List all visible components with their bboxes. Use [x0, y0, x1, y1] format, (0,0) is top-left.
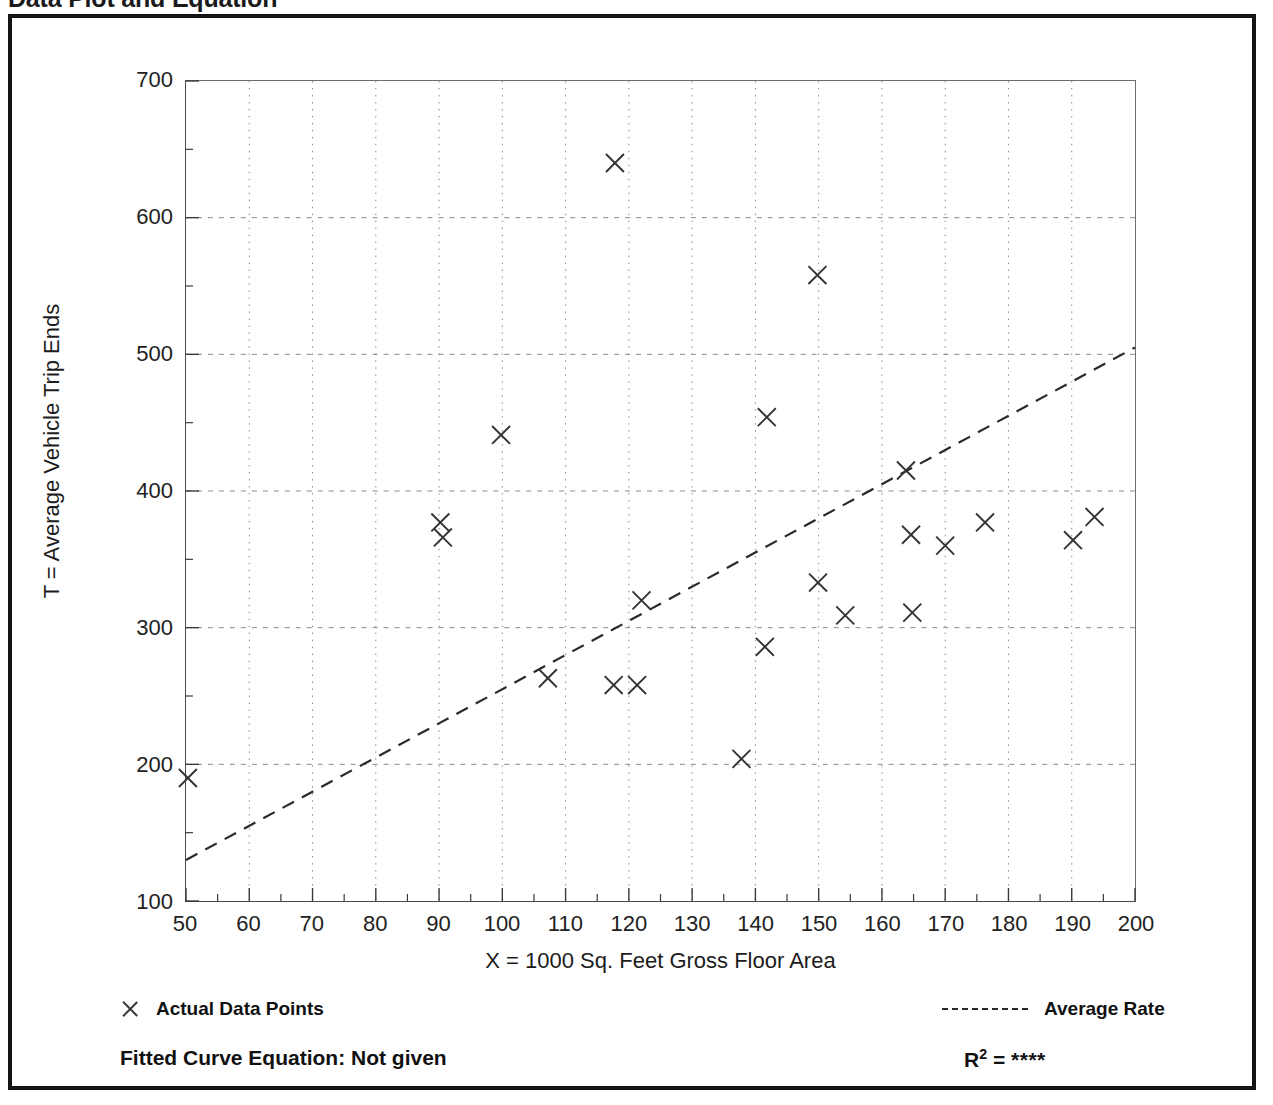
x-tick-50: 50: [173, 911, 197, 937]
x-tick-180: 180: [991, 911, 1028, 937]
fitted-curve-equation: Fitted Curve Equation: Not given: [120, 1046, 447, 1070]
figure-frame: 100200300400500600700 506070809010011012…: [8, 14, 1256, 1090]
x-tick-140: 140: [737, 911, 774, 937]
data-point: [936, 537, 954, 555]
r-squared-annotation: R2 = ****: [964, 1046, 1046, 1072]
legend-item-actual-data-points: Actual Data Points: [120, 998, 324, 1020]
x-tick-190: 190: [1054, 911, 1091, 937]
y-tick-700: 700: [136, 67, 173, 93]
r-squared-equals: =: [987, 1048, 1011, 1071]
data-point: [539, 669, 557, 687]
x-tick-70: 70: [300, 911, 324, 937]
data-point: [492, 426, 510, 444]
data-point: [628, 676, 646, 694]
x-tick-110: 110: [548, 911, 583, 937]
y-axis-tick-labels: 100200300400500600700: [107, 80, 173, 902]
x-tick-60: 60: [236, 911, 260, 937]
r-squared-symbol: R: [964, 1048, 979, 1071]
data-point: [605, 676, 623, 694]
data-point: [976, 513, 994, 531]
r-squared-value: ****: [1011, 1048, 1046, 1071]
x-tick-80: 80: [363, 911, 387, 937]
y-axis-title: T = Average Vehicle Trip Ends: [39, 211, 65, 691]
x-tick-90: 90: [426, 911, 450, 937]
page-title: Data Plot and Equation: [8, 0, 277, 13]
x-tick-130: 130: [674, 911, 711, 937]
data-point: [1064, 531, 1082, 549]
r-squared-exponent: 2: [979, 1046, 987, 1062]
data-point: [633, 591, 651, 609]
y-tick-200: 200: [136, 752, 173, 778]
legend-label-actual-data-points: Actual Data Points: [156, 998, 324, 1020]
dashed-line-icon: [942, 1008, 1028, 1010]
x-tick-120: 120: [610, 911, 647, 937]
legend-label-average-rate: Average Rate: [1044, 998, 1165, 1020]
data-point: [758, 408, 776, 426]
data-point: [756, 638, 774, 656]
data-point: [434, 528, 452, 546]
equation-row: Fitted Curve Equation: Not given R2 = **…: [12, 1046, 1252, 1086]
data-point: [808, 266, 826, 284]
x-marker-icon: [120, 999, 140, 1019]
data-point: [809, 574, 827, 592]
data-point: [733, 750, 751, 768]
y-tick-100: 100: [136, 889, 173, 915]
plot-area: [185, 80, 1136, 902]
plot-region: [185, 80, 1136, 902]
chart-page: Data Plot and Equation 10020030040050060…: [0, 0, 1273, 1105]
data-point-markers: [186, 81, 1135, 901]
x-tick-170: 170: [927, 911, 964, 937]
x-axis-title: X = 1000 Sq. Feet Gross Floor Area: [185, 948, 1136, 974]
data-point: [836, 606, 854, 624]
data-point: [1086, 508, 1104, 526]
y-tick-400: 400: [136, 478, 173, 504]
legend-item-average-rate: Average Rate: [942, 998, 1165, 1020]
data-point: [606, 154, 624, 172]
y-tick-300: 300: [136, 615, 173, 641]
data-point: [902, 526, 920, 544]
x-axis-tick-labels: 5060708090100110120130140150160170180190…: [185, 911, 1136, 941]
x-tick-100: 100: [484, 911, 521, 937]
y-tick-600: 600: [136, 204, 173, 230]
chart-legend: Actual Data Points Average Rate: [12, 998, 1252, 1032]
x-tick-150: 150: [801, 911, 838, 937]
data-point: [897, 462, 915, 480]
x-tick-200: 200: [1118, 911, 1155, 937]
data-point: [179, 769, 197, 787]
data-point: [903, 604, 921, 622]
x-tick-160: 160: [864, 911, 901, 937]
y-tick-500: 500: [136, 341, 173, 367]
